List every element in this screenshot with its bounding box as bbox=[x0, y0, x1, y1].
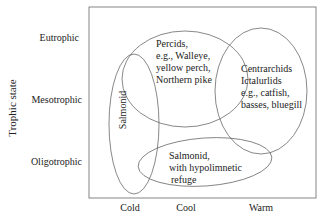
centrarchids-line-4: basses, bluegill bbox=[241, 99, 302, 110]
centrarchids-line-1: Centrarchids bbox=[241, 63, 292, 74]
centrarchids-line-3: e.g., catfish, bbox=[241, 87, 290, 98]
x-level-cool: Cool bbox=[176, 202, 196, 213]
percids-line-4: Northern pike bbox=[156, 74, 212, 85]
percids-line-2: e.g., Walleye, bbox=[156, 50, 210, 61]
salmonid-label: Salmonid bbox=[117, 91, 128, 129]
x-level-warm: Warm bbox=[249, 202, 273, 213]
percids-line-1: Percids, bbox=[156, 38, 188, 49]
centrarchids-line-2: Ictalurlids bbox=[241, 75, 282, 86]
y-axis-title: Trophic state bbox=[6, 79, 18, 136]
percids-line-3: yellow perch, bbox=[156, 62, 210, 73]
y-level-oligotrophic: Oligotrophic bbox=[31, 156, 83, 167]
refuge-line-3: refuge bbox=[171, 174, 197, 185]
y-level-mesotrophic: Mesotrophic bbox=[31, 94, 82, 105]
refuge-line-2: with hypolimnetic bbox=[169, 162, 243, 173]
fish-habitat-diagram: Trophic state Eutrophic Mesotrophic Olig… bbox=[0, 0, 324, 218]
y-level-eutrophic: Eutrophic bbox=[40, 32, 80, 43]
x-level-cold: Cold bbox=[120, 202, 139, 213]
refuge-line-1: Salmonid, bbox=[169, 150, 210, 161]
